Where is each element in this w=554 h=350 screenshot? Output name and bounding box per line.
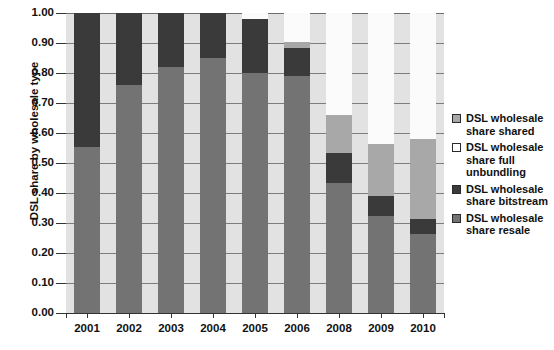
bar-segment-shared[interactable] <box>368 144 394 197</box>
bar-segment-resale[interactable] <box>368 216 394 314</box>
bar-segment-shared[interactable] <box>326 115 352 153</box>
y-axis-tick-label: 0.40 <box>8 186 54 198</box>
y-axis-tick-label: 0.70 <box>8 96 54 108</box>
x-axis-tick-mark <box>423 313 424 318</box>
y-axis-tick-label: 0.80 <box>8 66 54 78</box>
plot-area <box>66 13 444 313</box>
y-axis-tick-label: 0.90 <box>8 36 54 48</box>
y-axis-tick-label: 0.00 <box>8 306 54 318</box>
bar-2010[interactable] <box>410 13 436 313</box>
bar-2003[interactable] <box>158 13 184 313</box>
x-axis-tick-mark <box>87 313 88 318</box>
bar-segment-resale[interactable] <box>200 58 226 313</box>
y-axis-tick-mark <box>56 223 66 224</box>
bar-2005[interactable] <box>242 13 268 313</box>
x-axis-tick-mark <box>255 313 256 318</box>
x-axis-tick-mark <box>66 313 67 318</box>
bar-segment-full[interactable] <box>368 13 394 144</box>
bar-segment-shared[interactable] <box>410 139 436 219</box>
bar-segment-resale[interactable] <box>410 234 436 314</box>
x-axis-tick-mark <box>171 313 172 318</box>
bar-segment-shared[interactable] <box>284 42 310 48</box>
bar-segment-bitstream[interactable] <box>200 13 226 58</box>
bar-segment-resale[interactable] <box>74 147 100 314</box>
bar-segment-resale[interactable] <box>242 73 268 313</box>
y-axis-tick-mark <box>56 103 66 104</box>
legend-swatch-bitstream-icon <box>452 185 461 194</box>
x-axis-tick-mark <box>213 313 214 318</box>
bar-segment-bitstream[interactable] <box>242 19 268 73</box>
legend-swatch-full-icon <box>452 143 461 152</box>
bar-segment-resale[interactable] <box>116 85 142 313</box>
x-axis-tick-mark <box>381 313 382 318</box>
y-axis-tick-mark <box>56 253 66 254</box>
bar-2008[interactable] <box>326 13 352 313</box>
legend-item-full[interactable]: DSL wholesale share full unbundling <box>452 141 554 179</box>
y-axis-tick-label: 0.60 <box>8 126 54 138</box>
bar-segment-bitstream[interactable] <box>410 219 436 234</box>
legend-item-resale[interactable]: DSL wholesale share resale <box>452 212 554 237</box>
legend-item-shared[interactable]: DSL wholesale share shared <box>452 112 554 137</box>
y-axis-tick-label: 0.20 <box>8 246 54 258</box>
y-axis-tick-mark <box>56 73 66 74</box>
bar-segment-full[interactable] <box>242 13 268 19</box>
y-axis-tick-mark <box>56 283 66 284</box>
y-axis-tick-label: 1.00 <box>8 6 54 18</box>
x-axis-tick-mark <box>129 313 130 318</box>
x-axis-tick-mark <box>297 313 298 318</box>
bar-2006[interactable] <box>284 13 310 313</box>
bar-2004[interactable] <box>200 13 226 313</box>
chart-root: DSL share by wholesale type 0.000.100.20… <box>0 0 554 350</box>
legend-label: DSL wholesale share full unbundling <box>466 141 543 179</box>
legend-label: DSL wholesale share shared <box>466 112 543 137</box>
legend-label: DSL wholesale share resale <box>466 212 543 237</box>
x-axis-tick-label-2010: 2010 <box>398 322 448 334</box>
bar-segment-resale[interactable] <box>326 183 352 314</box>
bar-segment-full[interactable] <box>284 13 310 42</box>
y-axis-tick-mark <box>56 193 66 194</box>
bar-segment-bitstream[interactable] <box>74 13 100 147</box>
bar-segment-bitstream[interactable] <box>326 153 352 183</box>
legend-label: DSL wholesale share bitstream <box>466 183 548 208</box>
y-axis-tick-label: 0.30 <box>8 216 54 228</box>
bar-2002[interactable] <box>116 13 142 313</box>
bar-2009[interactable] <box>368 13 394 313</box>
bar-segment-bitstream[interactable] <box>116 13 142 85</box>
y-axis-tick-mark <box>56 313 66 314</box>
bar-2001[interactable] <box>74 13 100 313</box>
y-axis-tick-mark <box>56 43 66 44</box>
legend-item-bitstream[interactable]: DSL wholesale share bitstream <box>452 183 554 208</box>
legend: DSL wholesale share sharedDSL wholesale … <box>452 112 554 241</box>
y-axis-tick-mark <box>56 163 66 164</box>
bar-segment-bitstream[interactable] <box>158 13 184 67</box>
y-axis-tick-mark <box>56 13 66 14</box>
y-axis-tick-label: 0.10 <box>8 276 54 288</box>
bar-segment-resale[interactable] <box>284 76 310 313</box>
bar-segment-full[interactable] <box>326 13 352 115</box>
x-axis-tick-mark <box>444 313 445 318</box>
y-axis-tick-label: 0.50 <box>8 156 54 168</box>
bar-segment-resale[interactable] <box>158 67 184 313</box>
x-axis-tick-mark <box>339 313 340 318</box>
legend-swatch-resale-icon <box>452 214 461 223</box>
y-axis-tick-mark <box>56 133 66 134</box>
bar-segment-bitstream[interactable] <box>368 196 394 216</box>
bar-segment-full[interactable] <box>410 13 436 139</box>
bar-segment-bitstream[interactable] <box>284 48 310 77</box>
legend-swatch-shared-icon <box>452 114 461 123</box>
